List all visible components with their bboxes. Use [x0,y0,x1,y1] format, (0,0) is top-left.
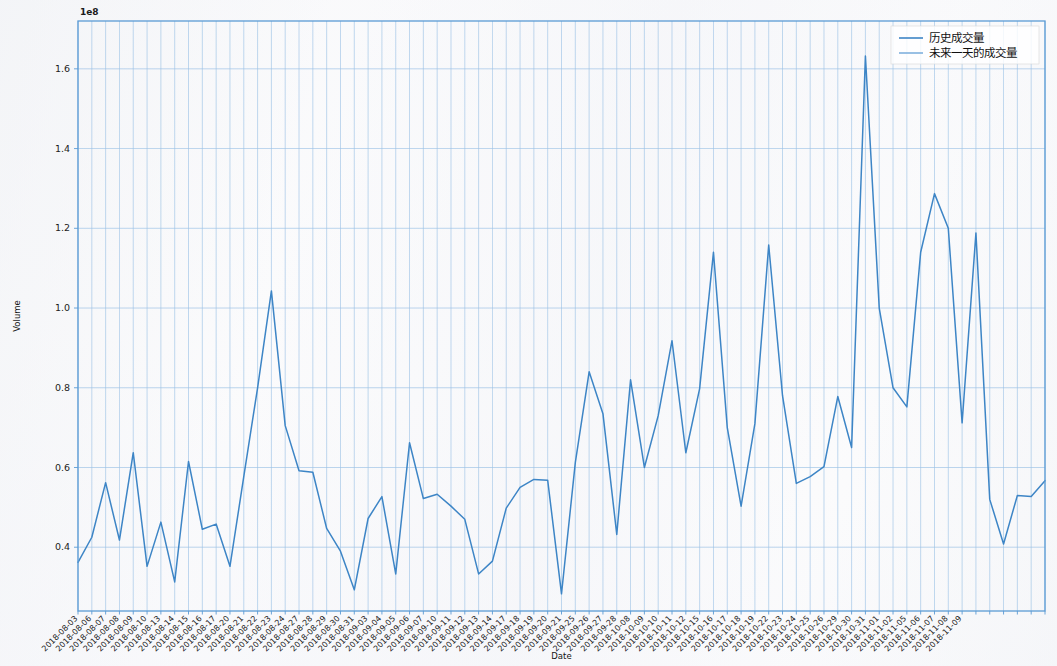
x-tick-labels: 2018-08-032018-08-062018-08-072018-08-08… [40,614,963,661]
y-tick-label: 1.6 [55,63,70,74]
legend-label: 历史成交量 [929,31,984,45]
y-axis-offset-label: 1e8 [80,7,99,17]
y-tick-label: 1.0 [55,302,70,313]
grid-lines [78,21,1045,611]
y-tick-label: 0.8 [55,382,70,393]
legend-label: 未来一天的成交量 [929,46,1017,60]
y-tick-label: 1.2 [55,222,70,233]
y-tick-label: 0.6 [55,462,70,473]
y-tick-label: 0.4 [55,541,70,552]
y-tick-label: 1.4 [55,143,70,154]
volume-line-chart: 2018-08-032018-08-062018-08-072018-08-08… [0,0,1057,666]
legend: 历史成交量未来一天的成交量 [891,26,1039,64]
x-axis-title: Date [551,651,571,661]
chart-svg-canvas: 2018-08-032018-08-062018-08-072018-08-08… [0,0,1057,666]
y-axis-title: Volume [12,300,22,332]
y-tick-labels: 0.40.60.81.01.21.41.61e8Volume [12,7,99,552]
